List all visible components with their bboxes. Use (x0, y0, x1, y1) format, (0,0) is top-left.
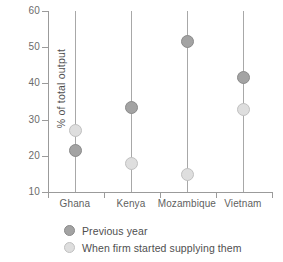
x-axis-tick (48, 192, 49, 198)
x-axis-tick (216, 192, 217, 198)
legend-label: When firm started supplying them (82, 242, 242, 254)
y-axis-tick-label: 30 (0, 115, 40, 125)
x-axis-tick (272, 192, 273, 198)
chart-container: 102030405060 % of total output GhanaKeny… (0, 0, 283, 262)
data-point[interactable] (237, 103, 250, 116)
connector-line (75, 11, 76, 192)
y-axis-tick-label: 40 (0, 78, 40, 88)
x-axis-tick (104, 192, 105, 198)
x-axis-label-vietnam: Vietnam (224, 198, 261, 210)
data-point[interactable] (181, 35, 194, 48)
data-point[interactable] (125, 101, 138, 114)
legend-item-previous-year: Previous year (64, 222, 283, 239)
plot-area: % of total output (48, 11, 272, 192)
legend-item-when-firm-started: When firm started supplying them (64, 239, 283, 256)
x-axis-label-mozambique: Mozambique (158, 198, 216, 210)
legend-label: Previous year (82, 225, 148, 237)
y-axis-tick-label: 10 (0, 187, 40, 197)
data-point[interactable] (237, 71, 250, 84)
connector-line (243, 11, 244, 192)
y-axis-tick-label: 20 (0, 151, 40, 161)
x-axis-label-kenya: Kenya (116, 198, 145, 210)
data-point[interactable] (181, 168, 194, 181)
legend-marker-circle-icon (64, 225, 75, 236)
data-point[interactable] (125, 157, 138, 170)
legend-marker-circle-icon (64, 242, 75, 253)
data-point[interactable] (69, 124, 82, 137)
y-axis-tick-label: 50 (0, 42, 40, 52)
x-axis-label-ghana: Ghana (60, 198, 91, 210)
data-point[interactable] (69, 144, 82, 157)
chart-legend: Previous year When firm started supplyin… (64, 222, 283, 256)
y-axis-tick-label: 60 (0, 6, 40, 16)
y-axis-title: % of total output (56, 29, 67, 149)
